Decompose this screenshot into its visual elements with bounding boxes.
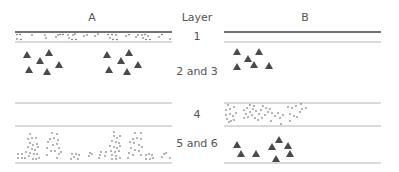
b-layer5-6-triangles [233, 136, 294, 162]
b-layer2-3-triangles [233, 48, 273, 70]
b-layer4-dots [225, 103, 307, 125]
panel-a [15, 32, 172, 163]
a-layer1-dots [16, 33, 171, 40]
panel-b [224, 32, 381, 163]
layer-diagram [0, 0, 399, 172]
a-layer2-3-triangles [23, 49, 142, 75]
a-layer5-6-dots [17, 131, 171, 160]
